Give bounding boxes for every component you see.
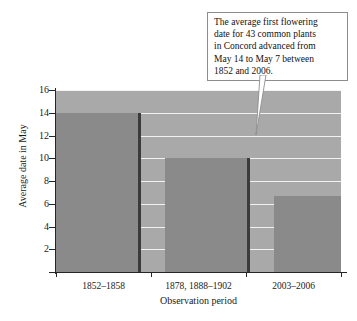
y-tick-16: 16	[0, 85, 49, 95]
y-tick-label-2: 2	[11, 244, 49, 254]
x-tick-mark-1	[151, 272, 152, 277]
x-tick-mark-3	[341, 272, 342, 277]
x-tick-label-1878-1888-1902: 1878, 1888–1902	[146, 281, 251, 292]
annotation-line-4: May 14 to May 7 between	[214, 53, 342, 65]
annotation-line-2: date for 43 common plants	[214, 28, 342, 40]
y-tick-mark-8	[49, 181, 56, 182]
bar-chart-figure: 16 14 12 10 8 6 4 2 1852–1858 1878, 1888…	[0, 0, 357, 321]
gridline-16	[56, 90, 341, 91]
annotation-line-1: The average first flowering	[214, 16, 342, 28]
y-tick-mark-16	[49, 90, 56, 91]
y-tick-mark-6	[49, 204, 56, 205]
y-tick-mark-10	[49, 158, 56, 159]
annotation-line-3: in Concord advanced from	[214, 40, 342, 52]
y-tick-mark-14	[49, 113, 56, 114]
x-tick-mark-2	[246, 272, 247, 277]
x-axis-title: Observation period	[56, 295, 341, 307]
bar-1852-1858	[56, 113, 141, 272]
y-tick-mark-2	[49, 249, 56, 250]
y-tick-mark-4	[49, 227, 56, 228]
bar-1878-1888-1902	[165, 158, 250, 272]
y-tick-label-16: 16	[11, 85, 49, 95]
bar-2003-2006	[274, 196, 341, 272]
x-tick-label-1852-1858: 1852–1858	[56, 281, 151, 292]
annotation-callout: The average first flowering date for 43 …	[207, 12, 348, 81]
y-tick-mark-12	[49, 136, 56, 137]
y-tick-2: 2	[0, 244, 49, 254]
plot-area	[56, 90, 341, 272]
x-axis-line	[49, 272, 347, 273]
x-tick-mark-0	[56, 272, 57, 277]
y-axis-title: Average date in May	[17, 96, 29, 236]
annotation-line-5: 1852 and 2006.	[214, 65, 342, 77]
x-tick-label-2003-2006: 2003–2006	[246, 281, 341, 292]
